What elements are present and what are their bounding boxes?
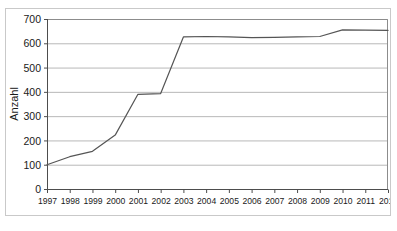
figure-caption-bottom xyxy=(6,222,336,231)
x-tick-label: 2005 xyxy=(220,196,239,206)
x-tick-label: 2002 xyxy=(152,196,171,206)
x-tick-label: 2000 xyxy=(106,196,125,206)
x-tick-label: 2011 xyxy=(357,196,376,206)
figure-container: 0100200300400500600700199719981999200020… xyxy=(5,8,391,216)
x-tick-label: 2010 xyxy=(333,196,352,206)
x-tick-label: 2012 xyxy=(379,196,390,206)
y-tick-label: 700 xyxy=(23,13,41,25)
x-tick-label: 2007 xyxy=(265,196,284,206)
x-tick-label: 2008 xyxy=(288,196,307,206)
x-tick-label: 2006 xyxy=(243,196,262,206)
x-tick-label: 1999 xyxy=(83,196,102,206)
x-tick-label: 2004 xyxy=(197,196,216,206)
y-tick-label: 100 xyxy=(23,159,41,171)
x-tick-label: 2009 xyxy=(311,196,330,206)
y-tick-label: 500 xyxy=(23,62,41,74)
plot-background xyxy=(47,19,388,189)
y-tick-label: 0 xyxy=(35,183,41,195)
y-tick-label: 400 xyxy=(23,86,41,98)
x-tick-label: 2001 xyxy=(129,196,148,206)
x-tick-label: 2003 xyxy=(174,196,193,206)
x-tick-label: 1998 xyxy=(61,196,80,206)
y-axis-title: Anzahl xyxy=(8,87,20,121)
y-tick-label: 300 xyxy=(23,110,41,122)
x-tick-label: 1997 xyxy=(38,196,57,206)
line-chart: 0100200300400500600700199719981999200020… xyxy=(6,9,390,215)
figure-caption-top xyxy=(40,0,360,3)
y-tick-label: 600 xyxy=(23,37,41,49)
y-tick-label: 200 xyxy=(23,135,41,147)
